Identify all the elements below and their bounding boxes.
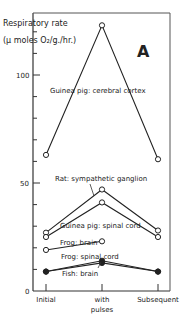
data-point-marker [43,269,48,274]
series-label-frog-spinal-cord: Frog: spinal cord [61,253,119,261]
data-point-marker [99,187,104,192]
x-tick-label: pulses [91,306,114,314]
data-point-marker [99,200,104,205]
x-tick-label: Initial [36,296,55,304]
data-point-marker [43,247,48,252]
series-label-sympathetic-ganglion: Rat: sympathetic ganglion [55,175,147,183]
chart: 050100 InitialwithpulsesSubsequent Respi… [0,0,184,319]
data-point-marker [155,228,160,233]
x-ticks: InitialwithpulsesSubsequent [36,284,179,314]
series-label-frog-brain: Frog: brain [60,239,98,247]
data-point-marker [155,157,160,162]
panel-label: A [137,42,150,61]
data-point-marker [155,234,160,239]
y-axis-label-line1: Respiratory rate [3,19,68,28]
data-point-marker [43,152,48,157]
y-tick-label: 100 [16,72,29,80]
data-point-marker [99,239,104,244]
x-tick-label: with [95,296,110,304]
y-axis-label-line2: (μ moles O₂/g./hr.) [3,36,76,45]
data-point-marker [99,23,104,28]
y-tick-label: 0 [25,288,29,296]
data-point-marker [155,269,160,274]
series-label-fish-brain: Fish: brain [62,270,98,278]
leader-line [90,184,94,196]
series-label-cerebral-cortex: Guinea pig: cerebral cortex [50,87,146,95]
data-point-marker [43,234,48,239]
x-tick-label: Subsequent [137,296,179,304]
y-tick-label: 50 [20,180,29,188]
series-label-guinea-pig-spinal-cord: Guinea pig: spinal cord [60,222,141,230]
y-ticks: 050100 [16,32,40,296]
